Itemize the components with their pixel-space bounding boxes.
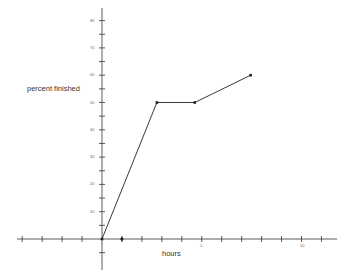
data-line	[102, 75, 251, 239]
data-point	[193, 101, 196, 104]
y-tick-label: 40	[90, 127, 94, 132]
y-tick-label: 20	[90, 181, 94, 186]
chart-area: percent finished hours 10203040506070805…	[0, 0, 347, 279]
data-point	[156, 101, 159, 104]
x-axis-label: hours	[162, 249, 181, 258]
x-tick-label: 10	[300, 243, 304, 248]
y-axis-label: percent finished	[27, 84, 80, 93]
y-tick-label: 80	[90, 18, 94, 23]
data-point	[249, 74, 252, 77]
x-tick-label: 5	[200, 243, 202, 248]
y-tick-label: 10	[90, 209, 94, 214]
y-tick-label: 70	[90, 45, 94, 50]
y-tick-label: 50	[90, 100, 94, 105]
line-chart	[0, 0, 347, 279]
y-tick-label: 60	[90, 72, 94, 77]
y-tick-label: 30	[90, 154, 94, 159]
data-point	[101, 238, 104, 241]
x-axis-marker	[120, 237, 124, 242]
